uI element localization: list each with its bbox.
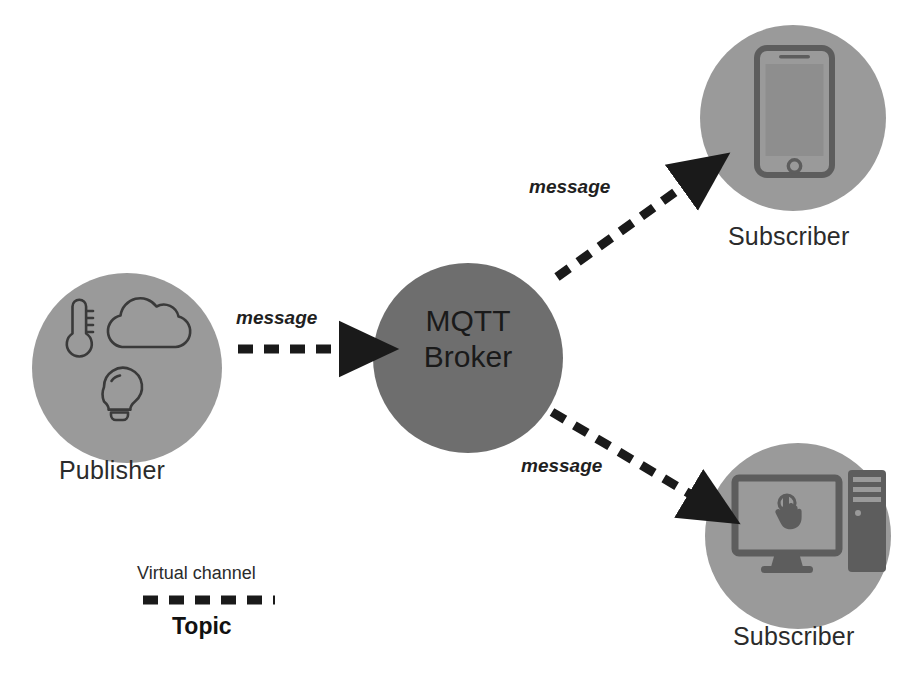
broker-label-line2: Broker	[368, 339, 568, 375]
message-label-broker-subscriber-top: message	[529, 176, 610, 198]
publisher-label: Publisher	[59, 456, 165, 485]
subscriber-top-label: Subscriber	[728, 222, 850, 251]
message-label-publisher-broker: message	[236, 307, 317, 329]
subscriber-bottom-node[interactable]	[705, 443, 891, 629]
legend-caption: Virtual channel	[137, 563, 256, 584]
subscriber-bottom-label: Subscriber	[733, 622, 855, 651]
diagram-canvas: Publisher MQTT Broker Subscriber Subscri…	[0, 0, 912, 674]
legend-topic-label: Topic	[172, 613, 232, 640]
publisher-node[interactable]	[32, 273, 222, 463]
broker-label-line1: MQTT	[368, 303, 568, 339]
broker-label: MQTT Broker	[368, 303, 568, 375]
smartphone-icon	[757, 48, 832, 175]
subscriber-top-node[interactable]	[700, 25, 886, 211]
message-label-broker-subscriber-bottom: message	[521, 455, 602, 477]
